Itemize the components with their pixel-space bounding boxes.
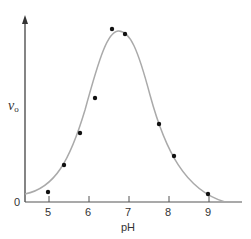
xtick-7: 7 bbox=[125, 206, 131, 218]
xtick-6: 6 bbox=[85, 206, 91, 218]
y-axis-label: vo bbox=[8, 98, 19, 114]
x-axis-label: pH bbox=[121, 221, 135, 233]
xtick-9: 9 bbox=[205, 206, 211, 218]
y-axis-arrow-icon bbox=[22, 15, 28, 24]
xtick-8: 8 bbox=[165, 206, 171, 218]
fit-curve bbox=[25, 31, 225, 202]
xtick-5: 5 bbox=[45, 206, 51, 218]
y-origin-label: 0 bbox=[14, 196, 20, 208]
chart: 5 6 7 8 9 pH 0 vo bbox=[0, 0, 251, 239]
data-points bbox=[46, 27, 210, 196]
